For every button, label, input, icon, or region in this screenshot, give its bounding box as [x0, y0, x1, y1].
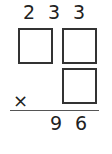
result-digit-ones: 6 [75, 114, 87, 133]
top-digit-tens: 3 [48, 3, 60, 22]
multiply-sign: × [13, 92, 28, 110]
result-line [10, 110, 99, 111]
top-digit-ones: 3 [73, 3, 85, 22]
blank-box-2[interactable] [62, 28, 97, 64]
result-digit-tens: 9 [50, 114, 62, 133]
top-digit-hundreds: 2 [23, 3, 35, 22]
blank-box-1[interactable] [18, 28, 53, 64]
blank-box-3[interactable] [62, 68, 97, 104]
